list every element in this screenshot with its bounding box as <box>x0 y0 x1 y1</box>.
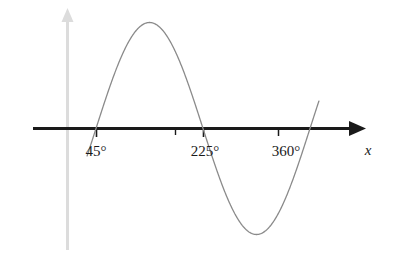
x-tick-label-225: 225° <box>191 143 220 159</box>
x-tick-label-360: 360° <box>272 143 301 159</box>
x-axis-label: x <box>364 142 372 158</box>
chart-background <box>0 0 398 262</box>
sine-wave-chart: 45° 225° 360° x <box>0 0 398 262</box>
x-tick-label-45: 45° <box>86 143 107 159</box>
